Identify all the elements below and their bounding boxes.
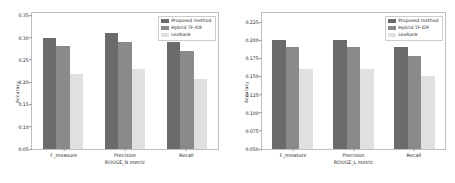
legend-left: Proposed method Hybrid TF-IDF LexRank — [158, 16, 216, 41]
y-axis-tick-label: 0.050 — [245, 147, 262, 152]
figure-bar-chart-pair: Accuracy Proposed method Hybrid TF-IDF L… — [0, 0, 455, 183]
y-axis-tick-label: 0.10 — [18, 124, 32, 129]
y-axis-tick-label: 0.175 — [245, 56, 262, 61]
bar-proposed-method — [272, 40, 286, 149]
bar-lexrank — [299, 69, 313, 149]
bar-group — [333, 13, 374, 149]
y-axis-tick-label: 0.25 — [18, 57, 32, 62]
bar-proposed-method — [167, 42, 181, 149]
y-axis-tick-label: 0.125 — [245, 92, 262, 97]
bar-hybrid-tf-idf — [56, 46, 70, 149]
y-axis-tick-label: 0.20 — [18, 80, 32, 85]
bar-lexrank — [132, 69, 146, 149]
x-axis-tick-mark — [293, 149, 294, 151]
y-axis-tick-label: 0.150 — [245, 74, 262, 79]
bar-lexrank — [360, 69, 374, 149]
legend-label-proposed: Proposed method — [171, 19, 211, 24]
legend-swatch-lexrank-icon — [388, 33, 396, 37]
bar-lexrank — [70, 74, 84, 149]
legend-swatch-hybrid-icon — [388, 26, 396, 30]
y-axis-tick-label: 0.075 — [245, 128, 262, 133]
bar-group — [272, 13, 313, 149]
legend-item-hybrid: Hybrid TF-IDF — [161, 26, 211, 31]
x-axis-tick-mark — [186, 149, 187, 151]
bar-hybrid-tf-idf — [408, 56, 422, 149]
legend-swatch-lexrank-icon — [161, 33, 169, 37]
legend-item-proposed: Proposed method — [388, 19, 438, 24]
x-axis-tick-label: Precision — [114, 152, 136, 158]
legend-right: Proposed method Hybrid TF-IDF LexRank — [385, 16, 443, 41]
x-axis-tick-label: Recall — [179, 152, 194, 158]
bar-hybrid-tf-idf — [180, 51, 194, 149]
y-axis-tick-label: 0.200 — [245, 38, 262, 43]
legend-swatch-proposed-icon — [161, 19, 169, 23]
legend-item-lexrank: LexRank — [161, 33, 211, 38]
bar-proposed-method — [43, 38, 57, 149]
y-axis-tick-label: 0.05 — [18, 147, 32, 152]
y-axis-tick-label: 0.30 — [18, 35, 32, 40]
chart-panel-rouge-n: Accuracy Proposed method Hybrid TF-IDF L… — [0, 0, 227, 183]
legend-item-lexrank: LexRank — [388, 33, 438, 38]
legend-item-proposed: Proposed method — [161, 19, 211, 24]
plot-area-right: Proposed method Hybrid TF-IDF LexRank RO… — [261, 12, 446, 150]
bar-proposed-method — [333, 40, 347, 149]
legend-swatch-hybrid-icon — [161, 26, 169, 30]
x-axis-tick-label: Precision — [343, 152, 365, 158]
bar-group — [105, 13, 146, 149]
plot-area-left: Proposed method Hybrid TF-IDF LexRank RO… — [31, 12, 219, 150]
bar-lexrank — [194, 79, 208, 149]
x-axis-tick-mark — [125, 149, 126, 151]
y-axis-tick-label: 0.100 — [245, 110, 262, 115]
bar-hybrid-tf-idf — [118, 42, 132, 149]
legend-label-proposed: Proposed method — [398, 19, 438, 24]
x-axis-tick-label: Recall — [407, 152, 422, 158]
bar-hybrid-tf-idf — [286, 47, 300, 149]
y-axis-tick-label: 0.225 — [245, 20, 262, 25]
legend-label-lexrank: LexRank — [171, 33, 190, 38]
bar-lexrank — [421, 76, 435, 149]
x-axis-tick-label: F_measure — [280, 152, 307, 158]
bar-hybrid-tf-idf — [347, 47, 361, 149]
bar-group — [43, 13, 84, 149]
x-axis-label-left: ROUGE_N metric — [105, 160, 145, 165]
legend-label-hybrid: Hybrid TF-IDF — [398, 26, 429, 31]
y-axis-tick-label: 0.15 — [18, 102, 32, 107]
bar-proposed-method — [105, 33, 119, 149]
legend-swatch-proposed-icon — [388, 19, 396, 23]
legend-label-lexrank: LexRank — [398, 33, 417, 38]
legend-label-hybrid: Hybrid TF-IDF — [171, 26, 202, 31]
legend-item-hybrid: Hybrid TF-IDF — [388, 26, 438, 31]
bar-proposed-method — [394, 47, 408, 149]
y-axis-tick-label: 0.35 — [18, 13, 32, 18]
x-axis-tick-mark — [353, 149, 354, 151]
x-axis-tick-label: F_measure — [50, 152, 77, 158]
x-axis-tick-mark — [63, 149, 64, 151]
x-axis-tick-mark — [413, 149, 414, 151]
x-axis-label-right: ROUGE_L metric — [334, 160, 373, 165]
chart-panel-rouge-l: Accuracy Proposed method Hybrid TF-IDF L… — [227, 0, 455, 183]
